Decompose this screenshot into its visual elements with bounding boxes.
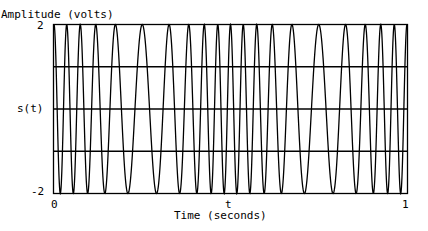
x-tick-left: 0 [51, 199, 58, 211]
x-tick-right: 1 [402, 199, 409, 211]
x-axis-label: Time (seconds) [174, 210, 267, 222]
grid-lines [54, 67, 407, 152]
y-tick-top: 2 [37, 20, 44, 32]
signal-side-label: s(t) [17, 103, 44, 115]
y-tick-bottom: -2 [31, 186, 44, 198]
plot-area [0, 0, 428, 231]
y-axis-label: Amplitude (volts) [1, 9, 114, 21]
